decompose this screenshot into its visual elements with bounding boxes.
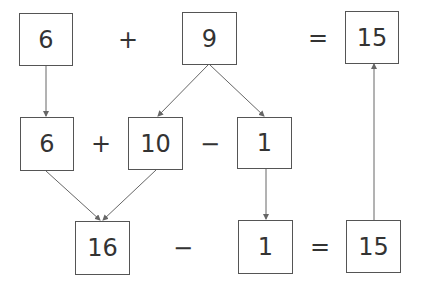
- arrow-9-to-1: [210, 65, 264, 116]
- arrow-10-to-16: [103, 170, 156, 220]
- arrow-9-to-10: [158, 65, 208, 116]
- row1-box-a: 6: [19, 13, 73, 66]
- row1-equals: =: [308, 24, 328, 52]
- row2-plus: +: [91, 130, 111, 158]
- row2-box-a: 6: [20, 117, 74, 171]
- row3-box-result: 15: [346, 220, 401, 273]
- row1-box-result: 15: [345, 11, 399, 64]
- row3-box-a: 16: [75, 221, 130, 275]
- row3-box-b: 1: [238, 220, 293, 274]
- row1-plus: +: [118, 26, 138, 54]
- arrow-6-to-16: [46, 171, 100, 220]
- row2-box-b: 10: [128, 117, 183, 170]
- row3-equals: =: [310, 233, 330, 261]
- row2-minus: −: [200, 130, 220, 158]
- row1-box-b: 9: [182, 12, 237, 65]
- row3-minus: −: [173, 234, 193, 262]
- row2-box-c: 1: [237, 117, 292, 169]
